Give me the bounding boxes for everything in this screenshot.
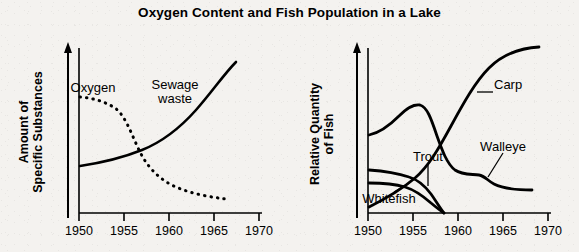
- y-axis-arrowhead-right: [353, 42, 361, 53]
- chart-panel-fish-quantity: Relative Quantity of Fish: [289, 0, 579, 252]
- x-ticks-left: [79, 213, 259, 221]
- x-tick-label-1955: 1955: [393, 224, 433, 238]
- axis-lines-left: [79, 48, 262, 213]
- x-tick-label-1965: 1965: [194, 224, 234, 238]
- x-tick-label-1965: 1965: [483, 224, 523, 238]
- series-label-whitefish: Whitefish: [349, 192, 429, 206]
- right-plot-svg: [289, 0, 579, 252]
- series-label-carp: Carp: [494, 78, 540, 92]
- leader-line-walleye: [488, 153, 503, 177]
- series-label-sewage-line1: Sewage: [144, 78, 206, 92]
- x-tick-label-1970: 1970: [528, 224, 568, 238]
- x-ticks-right: [368, 213, 548, 221]
- x-tick-label-1950: 1950: [348, 224, 388, 238]
- series-line-oxygen: [80, 97, 226, 199]
- y-axis-arrowhead-left: [64, 42, 72, 53]
- series-label-sewage-waste: Sewage waste: [144, 78, 206, 105]
- series-label-sewage-line2: waste: [144, 92, 206, 106]
- left-plot-svg: [0, 0, 290, 252]
- x-tick-label-1950: 1950: [59, 224, 99, 238]
- series-label-walleye: Walleye: [469, 140, 537, 154]
- x-tick-label-1960: 1960: [438, 224, 478, 238]
- chart-panel-oxygen-substances: Amount of Specific Substances: [0, 0, 290, 252]
- x-tick-label-1970: 1970: [239, 224, 279, 238]
- x-tick-label-1960: 1960: [149, 224, 189, 238]
- series-label-trout: Trout: [399, 150, 457, 164]
- series-line-carp: [369, 47, 539, 207]
- series-label-oxygen: Oxygen: [62, 81, 124, 95]
- figure-oxygen-fish: Oxygen Content and Fish Population in a …: [0, 0, 579, 252]
- x-tick-label-1955: 1955: [104, 224, 144, 238]
- axis-lines-right: [368, 48, 551, 213]
